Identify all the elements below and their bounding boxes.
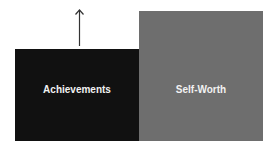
achievements-label: Achievements xyxy=(15,84,139,95)
self-worth-block: Self-Worth xyxy=(139,11,263,141)
achievements-block: Achievements xyxy=(15,49,139,141)
up-arrow-icon xyxy=(74,8,85,48)
self-worth-label: Self-Worth xyxy=(139,84,263,95)
